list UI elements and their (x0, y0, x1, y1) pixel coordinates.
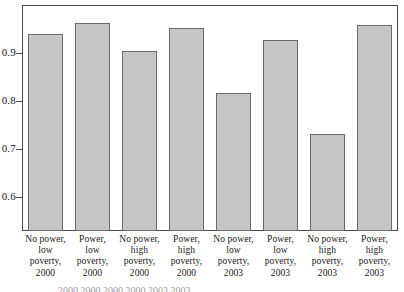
x-axis-category-label-line: No power, (23, 234, 68, 245)
y-axis-tick-label: 0.6 (0, 191, 16, 202)
x-axis-category-label: Power,lowpoverty,2000 (69, 234, 116, 279)
x-axis-category-label-line: 2000 (70, 268, 115, 279)
x-axis-category-label-line: poverty, (352, 256, 397, 267)
y-axis-tick-label: 0.9 (0, 47, 16, 58)
x-axis-category-label-line: poverty, (305, 256, 350, 267)
x-axis-category-label-line: poverty, (23, 256, 68, 267)
x-axis-category-label-line: 2000 (23, 268, 68, 279)
x-axis-category-label-line: high (117, 245, 162, 256)
x-axis-category-label-line: No power, (305, 234, 350, 245)
y-axis-tick (16, 101, 23, 102)
x-axis-category-label: No power,lowpoverty,2000 (22, 234, 69, 279)
y-axis-tick (16, 53, 23, 54)
x-axis-category-label: No power,lowpoverty,2003 (210, 234, 257, 279)
bar (357, 25, 393, 231)
x-axis-category-label-line: low (23, 245, 68, 256)
x-axis-category-label-line: Power, (352, 234, 397, 245)
x-axis-category-label-line: 2003 (305, 268, 350, 279)
x-axis-category-label-line: 2003 (211, 268, 256, 279)
y-axis-tick (16, 197, 23, 198)
x-axis-category-label-line: poverty, (258, 256, 303, 267)
x-axis-category-label: Power,lowpoverty,2003 (257, 234, 304, 279)
bar-chart-figure: 0.60.70.80.9 No power,lowpoverty,2000Pow… (0, 0, 404, 292)
x-axis-category-label: No power,highpoverty,2000 (116, 234, 163, 279)
y-axis-tick-label: 0.7 (0, 143, 16, 154)
x-axis-category-label-line: poverty, (117, 256, 162, 267)
bar (216, 93, 252, 231)
x-axis-category-label-line: high (305, 245, 350, 256)
x-axis-category-label: Power,highpoverty,2003 (351, 234, 398, 279)
x-axis-category-label-line: poverty, (164, 256, 209, 267)
x-axis-category-label-line: Power, (164, 234, 209, 245)
x-axis-category-label-line: Power, (70, 234, 115, 245)
x-axis-category-label-line: No power, (211, 234, 256, 245)
x-axis-category-labels: No power,lowpoverty,2000Power,lowpoverty… (22, 234, 398, 284)
x-axis-category-label-line: 2003 (258, 268, 303, 279)
x-axis-category-label-line: low (258, 245, 303, 256)
x-axis-category-label-line: low (211, 245, 256, 256)
x-axis-category-label-line: high (352, 245, 397, 256)
y-axis-tick-label: 0.8 (0, 95, 16, 106)
bar (75, 23, 111, 231)
bar (122, 51, 158, 231)
x-axis-category-label-line: Power, (258, 234, 303, 245)
x-axis-category-label-line: high (164, 245, 209, 256)
x-axis-category-label-line: poverty, (70, 256, 115, 267)
x-axis-category-label-line: No power, (117, 234, 162, 245)
x-axis-category-label-line: poverty, (211, 256, 256, 267)
x-axis-category-label-line: 2000 (117, 268, 162, 279)
clipped-caption-text: 2000 2000 2000 2000 2003 2003 (58, 285, 358, 292)
bar (169, 28, 205, 231)
x-axis-category-label-line: 2000 (164, 268, 209, 279)
x-axis-category-label: No power,highpoverty,2003 (304, 234, 351, 279)
y-axis-tick (16, 149, 23, 150)
x-axis-category-label-line: low (70, 245, 115, 256)
x-axis-category-label-line: 2003 (352, 268, 397, 279)
bar (310, 134, 346, 231)
bar (28, 34, 64, 231)
x-axis-category-label: Power,highpoverty,2000 (163, 234, 210, 279)
bar (263, 40, 299, 231)
